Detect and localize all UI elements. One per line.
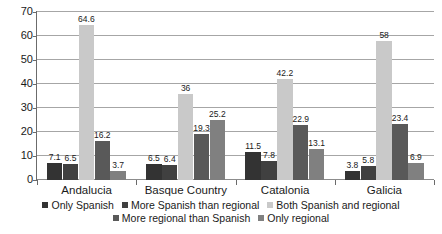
x-axis-tick-mark [136, 180, 137, 185]
legend-label: Both Spanish and regional [276, 199, 399, 212]
bar-value-label: 64.6 [78, 15, 95, 24]
y-axis-tick-label: 10 [5, 150, 33, 161]
y-axis-tick-label: 20 [5, 126, 33, 137]
bar[interactable]: 3.8 [345, 171, 360, 180]
bar-value-label: 22.9 [292, 115, 309, 124]
bar-value-label: 7.1 [49, 153, 61, 162]
bar[interactable]: 6.4 [162, 165, 177, 180]
x-axis-tick-mark [434, 180, 435, 185]
legend-item[interactable]: Only regional [258, 212, 329, 225]
x-axis-category-label: Catalonia [236, 184, 335, 197]
legend-swatch-icon [258, 215, 264, 221]
y-axis-tick-label: 0 [5, 174, 33, 185]
bar-value-label: 19.3 [193, 124, 210, 133]
legend-label: Only Spanish [51, 199, 113, 212]
bar-value-label: 5.8 [362, 156, 374, 165]
bar[interactable]: 6.5 [63, 164, 78, 180]
bar[interactable]: 7.8 [261, 161, 276, 180]
bar-value-label: 6.5 [148, 154, 160, 163]
legend-item[interactable]: Only Spanish [42, 199, 113, 212]
bar-value-label: 25.2 [209, 110, 226, 119]
y-axis-tick-label: 30 [5, 102, 33, 113]
bar-group: 7.16.564.616.23.7 [37, 12, 136, 180]
legend-swatch-icon [113, 215, 119, 221]
bar[interactable]: 22.9 [293, 125, 308, 180]
bar-value-label: 42.2 [277, 69, 294, 78]
bar-value-label: 6.5 [65, 154, 77, 163]
legend-label: More Spanish than regional [131, 199, 259, 212]
bar[interactable]: 6.9 [408, 163, 423, 180]
bar[interactable]: 3.7 [110, 171, 125, 180]
bar[interactable]: 5.8 [361, 166, 376, 180]
y-axis-tick-label: 40 [5, 78, 33, 89]
bar-value-label: 16.2 [94, 131, 111, 140]
bar[interactable]: 58 [376, 41, 391, 180]
y-axis-tick-label: 50 [5, 54, 33, 65]
bar[interactable]: 64.6 [79, 25, 94, 180]
bar[interactable]: 42.2 [277, 79, 292, 180]
legend-swatch-icon [122, 202, 128, 208]
x-axis-tick-mark [236, 180, 237, 185]
bar-value-label: 6.4 [164, 155, 176, 164]
bar-group: 11.57.842.222.913.1 [236, 12, 335, 180]
legend-swatch-icon [267, 202, 273, 208]
grouped-bar-chart: 706050403020100 7.16.564.616.23.76.56.43… [0, 0, 442, 234]
plot-area: 7.16.564.616.23.76.56.43619.325.211.57.8… [37, 12, 434, 180]
legend-row: More regional than SpanishOnly regional [0, 212, 442, 225]
y-axis-tick-label: 60 [5, 30, 33, 41]
bar[interactable]: 11.5 [245, 152, 260, 180]
bar-value-label: 3.8 [346, 161, 358, 170]
chart-legend: Only SpanishMore Spanish than regionalBo… [0, 199, 442, 225]
bar-group: 6.56.43619.325.2 [136, 12, 235, 180]
legend-label: More regional than Spanish [122, 212, 250, 225]
bar-value-label: 3.7 [112, 161, 124, 170]
bar[interactable]: 25.2 [210, 120, 225, 180]
x-axis-category-label: Basque Country [136, 184, 235, 197]
bar-value-label: 11.5 [245, 142, 261, 151]
legend-label: Only regional [267, 212, 329, 225]
bar[interactable]: 36 [178, 94, 193, 180]
bar-value-label: 13.1 [308, 139, 325, 148]
bar[interactable]: 16.2 [95, 141, 110, 180]
bar[interactable]: 13.1 [309, 149, 324, 180]
bar-value-label: 36 [181, 84, 190, 93]
x-axis-tick-mark [335, 180, 336, 185]
x-axis-tick-mark [37, 180, 38, 185]
bar[interactable]: 23.4 [392, 124, 407, 180]
x-axis-category-label: Galicia [335, 184, 434, 197]
bar[interactable]: 7.1 [47, 163, 62, 180]
bar-value-label: 23.4 [392, 114, 409, 123]
bar[interactable]: 6.5 [146, 164, 161, 180]
x-axis-category-label: Andalucia [37, 184, 136, 197]
bar-value-label: 7.8 [263, 151, 275, 160]
legend-item[interactable]: More Spanish than regional [122, 199, 259, 212]
bar[interactable]: 19.3 [194, 134, 209, 180]
legend-row: Only SpanishMore Spanish than regionalBo… [0, 199, 442, 212]
y-axis-tick-label: 70 [5, 6, 33, 17]
bar-value-label: 6.9 [410, 153, 422, 162]
bar-value-label: 58 [379, 31, 388, 40]
bar-group: 3.85.85823.46.9 [335, 12, 434, 180]
legend-item[interactable]: Both Spanish and regional [267, 199, 399, 212]
legend-swatch-icon [42, 202, 48, 208]
legend-item[interactable]: More regional than Spanish [113, 212, 250, 225]
